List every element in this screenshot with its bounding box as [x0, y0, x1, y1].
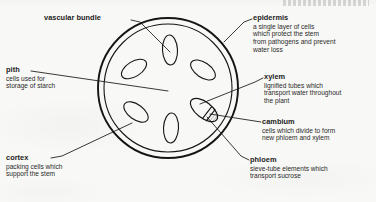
label-cortex-body-line-2: support the stem	[6, 170, 62, 178]
label-vascular-bundle: vascular bundle	[44, 14, 101, 23]
label-epidermis: epidermis a single layer of cells which …	[253, 14, 335, 53]
label-vascular-bundle-heading: vascular bundle	[44, 14, 101, 23]
vascular-bundle-upper-left	[118, 55, 150, 83]
label-xylem-heading: xylem	[264, 73, 341, 82]
vascular-bundle-lower-left	[120, 98, 151, 127]
label-phloem: phloem sieve-tube elements which transpo…	[250, 156, 328, 180]
label-cortex: cortex packing cells which support the s…	[6, 154, 62, 178]
label-xylem: xylem lignified tubes which transport wa…	[264, 73, 341, 105]
label-phloem-body-line-2: transport sucrose	[250, 172, 328, 180]
label-pith: pith cells used for storage of starch	[6, 66, 55, 90]
vascular-bundle-bottom	[163, 113, 180, 144]
label-phloem-heading: phloem	[250, 156, 328, 165]
epidermis-outer-ring	[98, 18, 238, 158]
label-pith-body-line-1: cells used for	[6, 75, 55, 83]
vascular-bundle-upper-right	[187, 56, 219, 84]
label-xylem-body-line-2: transport water throughout	[264, 89, 341, 97]
bundle-outline	[186, 94, 221, 126]
vascular-bundle-detailed	[186, 94, 221, 126]
epidermis-inner-ring	[104, 24, 232, 152]
label-epidermis-body-line-4: water loss	[253, 46, 335, 54]
leader-line-epidermis	[224, 19, 252, 42]
label-cambium-heading: cambium	[262, 118, 335, 127]
label-cambium-body-line-1: cells which divide to form	[262, 127, 335, 135]
label-cambium: cambium cells which divide to form new p…	[262, 118, 335, 142]
label-epidermis-body-line-2: which protect the stem	[253, 30, 335, 38]
label-cortex-body-line-1: packing cells which	[6, 163, 62, 171]
stem-cross-section-diagram: vascular bundle epidermis a single layer…	[0, 0, 376, 202]
label-xylem-body-line-1: lignified tubes which	[264, 82, 341, 90]
label-xylem-body-line-3: the plant	[264, 97, 341, 105]
label-epidermis-body-line-1: a single layer of cells	[253, 23, 335, 31]
label-phloem-body-line-1: sieve-tube elements which	[250, 165, 328, 173]
label-cortex-heading: cortex	[6, 154, 62, 163]
label-pith-heading: pith	[6, 66, 55, 75]
label-epidermis-body-line-3: from pathogens and prevent	[253, 38, 335, 46]
leader-line-cortex	[51, 123, 132, 158]
vascular-bundle-top	[162, 35, 179, 66]
label-cambium-body-line-2: new phloem and xylem	[262, 134, 335, 142]
label-pith-body-line-2: storage of starch	[6, 82, 55, 90]
label-epidermis-heading: epidermis	[253, 14, 335, 23]
